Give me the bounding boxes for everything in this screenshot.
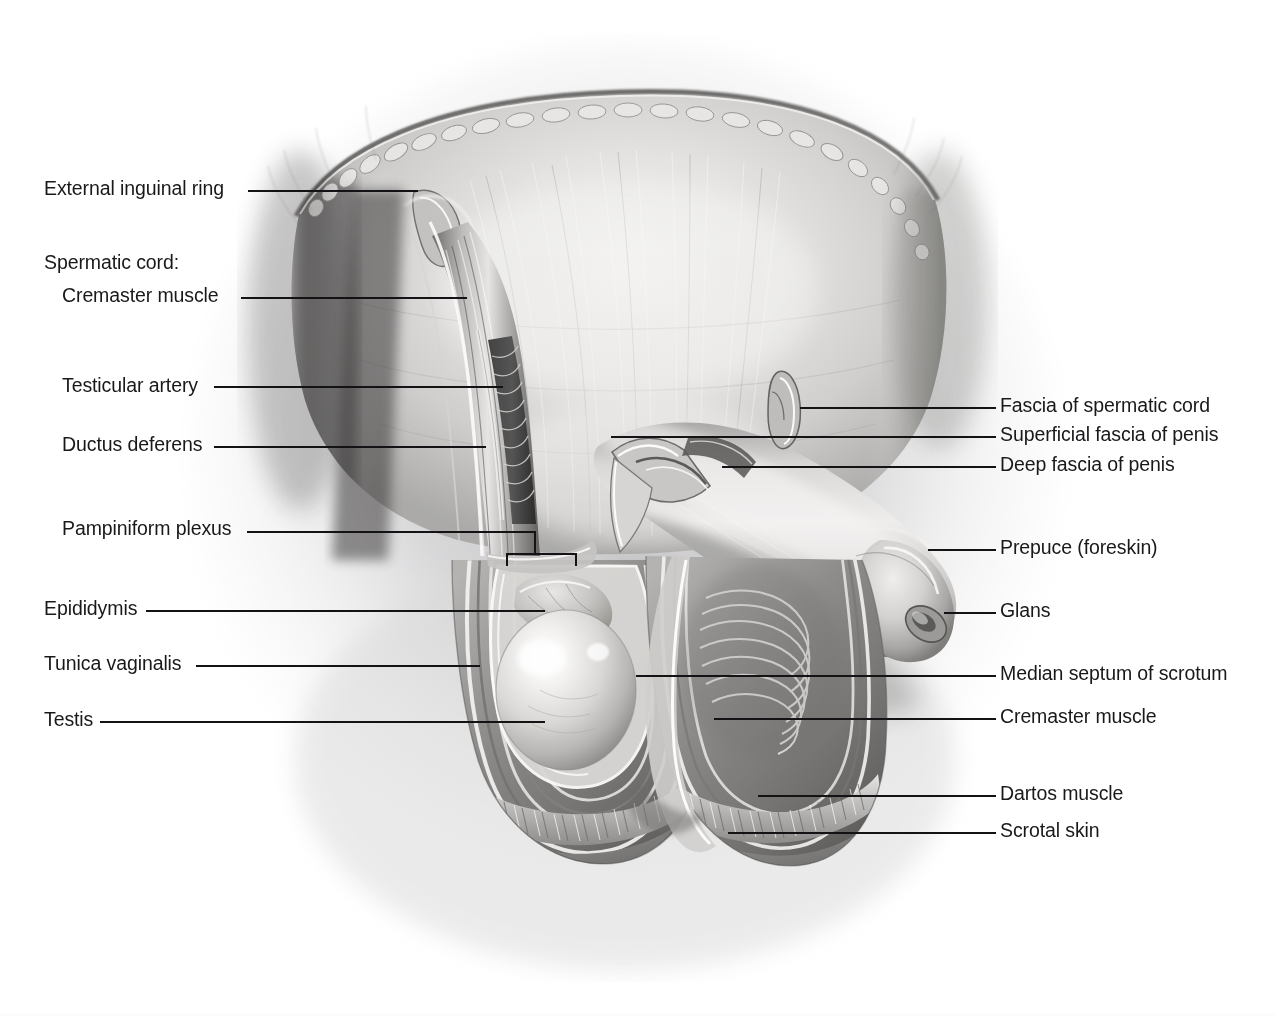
leader-line-tunica-vaginalis bbox=[196, 665, 480, 667]
pampiniform-plexus-bracket-cross-stroke bbox=[506, 553, 575, 555]
leader-line-glans bbox=[944, 612, 996, 614]
label-left-external-inguinal-ring: External inguinal ring bbox=[44, 178, 224, 199]
leader-line-prepuce-foreskin bbox=[928, 549, 996, 551]
leader-line-median-septum-of-scrotum bbox=[636, 675, 996, 677]
leader-line-ductus-deferens bbox=[214, 446, 486, 448]
leader-line-scrotal-skin bbox=[728, 832, 996, 834]
label-right-prepuce-foreskin: Prepuce (foreskin) bbox=[1000, 537, 1158, 558]
label-left-epididymis: Epididymis bbox=[44, 598, 137, 619]
label-right-scrotal-skin: Scrotal skin bbox=[1000, 820, 1100, 841]
label-right-glans: Glans bbox=[1000, 600, 1050, 621]
label-right-median-septum-of-scrotum: Median septum of scrotum bbox=[1000, 663, 1227, 684]
pampiniform-plexus-bracket-down-stroke bbox=[534, 531, 536, 553]
label-left-cremaster-muscle: Cremaster muscle bbox=[62, 285, 219, 306]
leader-line-external-inguinal-ring bbox=[248, 190, 418, 192]
caption-cutoff-strip bbox=[0, 1002, 1275, 1016]
pampiniform-plexus-bracket-right-tick bbox=[575, 553, 577, 566]
label-left-ductus-deferens: Ductus deferens bbox=[62, 434, 203, 455]
leader-line-dartos-muscle bbox=[758, 795, 996, 797]
label-left-pampiniform-plexus: Pampiniform plexus bbox=[62, 518, 231, 539]
label-right-deep-fascia-of-penis: Deep fascia of penis bbox=[1000, 454, 1175, 475]
leader-line-cremaster-muscle bbox=[714, 718, 996, 720]
leader-line-testicular-artery bbox=[214, 386, 503, 388]
anatomical-illustration bbox=[0, 0, 1275, 1016]
leader-line-testis bbox=[100, 721, 545, 723]
label-left-tunica-vaginalis: Tunica vaginalis bbox=[44, 653, 182, 674]
leader-line-deep-fascia-of-penis bbox=[722, 466, 996, 468]
anatomy-figure-plate: External inguinal ringSpermatic cord:Cre… bbox=[0, 0, 1275, 1016]
label-left-spermatic-cord: Spermatic cord: bbox=[44, 252, 179, 273]
leader-line-epididymis bbox=[146, 610, 545, 612]
label-right-cremaster-muscle: Cremaster muscle bbox=[1000, 706, 1157, 727]
label-left-testis: Testis bbox=[44, 709, 93, 730]
label-right-superficial-fascia-of-penis: Superficial fascia of penis bbox=[1000, 424, 1218, 445]
leader-line-fascia-of-spermatic-cord bbox=[800, 407, 996, 409]
label-right-dartos-muscle: Dartos muscle bbox=[1000, 783, 1123, 804]
leader-line-pampiniform-plexus bbox=[247, 531, 534, 533]
label-left-testicular-artery: Testicular artery bbox=[62, 375, 198, 396]
pampiniform-plexus-bracket-left-tick bbox=[506, 553, 508, 566]
leader-line-superficial-fascia-of-penis bbox=[611, 436, 996, 438]
leader-line-cremaster-muscle bbox=[241, 297, 467, 299]
label-right-fascia-of-spermatic-cord: Fascia of spermatic cord bbox=[1000, 395, 1210, 416]
